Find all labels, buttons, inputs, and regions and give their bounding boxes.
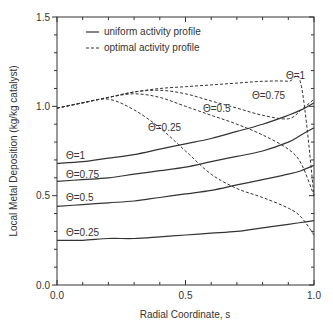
chart: 0.00.51.00.00.51.01.5 Θ=1Θ=0.75Θ=0.5Θ=0.…	[0, 0, 333, 327]
y-axis-title: Local Metal Deposition (kg/kg catalyst)	[8, 65, 19, 236]
uniform-curve	[57, 103, 314, 164]
curve-label: Θ=0.75	[66, 169, 100, 180]
x-tick-label: 0.5	[179, 290, 193, 301]
legend-label-uniform: uniform activity profile	[104, 26, 201, 37]
curve-label: Θ=0.5	[203, 103, 231, 114]
x-tick-label: 1.0	[307, 290, 321, 301]
curve-label: Θ=0.25	[148, 122, 182, 133]
y-tick-label: 0.5	[36, 190, 50, 201]
optimal-curve	[57, 94, 314, 196]
y-tick-label: 0.0	[36, 280, 50, 291]
legend-label-optimal: optimal activity profile	[104, 42, 200, 53]
curve-labels: Θ=1Θ=0.75Θ=0.5Θ=0.25Θ=1Θ=0.75Θ=0.5Θ=0.25	[66, 70, 306, 238]
axis-ticks	[52, 17, 314, 285]
curve-label: Θ=0.75	[252, 90, 286, 101]
curve-label: Θ=0.25	[66, 227, 100, 238]
x-tick-label: 0.0	[50, 290, 64, 301]
y-tick-label: 1.5	[36, 12, 50, 23]
curve-label: Θ=1	[66, 150, 86, 161]
y-tick-label: 1.0	[36, 101, 50, 112]
x-axis-title: Radial Coordinate, s	[140, 309, 231, 320]
curve-label: Θ=0.5	[66, 192, 94, 203]
legend: uniform activity profile optimal activit…	[86, 26, 201, 53]
curve-label: Θ=1	[286, 70, 306, 81]
